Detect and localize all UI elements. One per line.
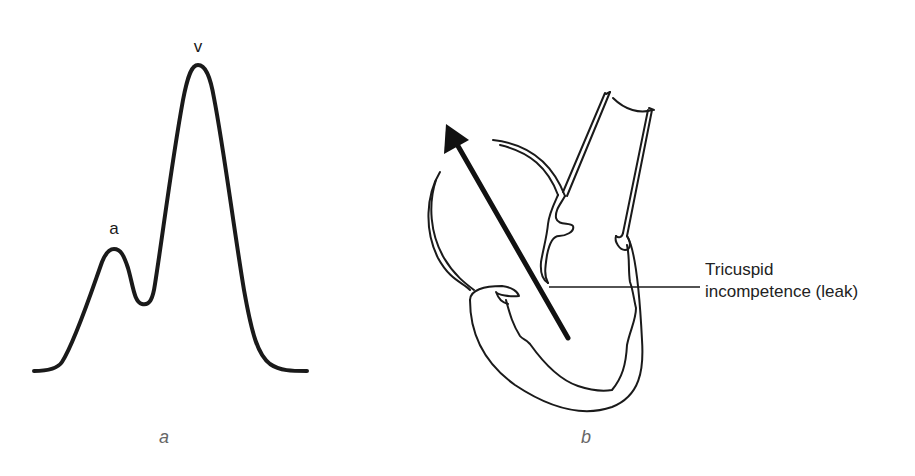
tricuspid-callout: Tricuspid incompetence (leak) xyxy=(705,259,858,303)
regurgitation-arrow-icon xyxy=(444,124,568,338)
callout-line-1: Tricuspid xyxy=(705,259,858,281)
v-wave-label: v xyxy=(194,38,203,55)
panel-a-caption: a xyxy=(159,428,169,446)
callout-line-2: incompetence (leak) xyxy=(705,281,858,303)
panel-b-caption: b xyxy=(581,428,591,446)
heart-diagram-panel: Tricuspid incompetence (leak) b xyxy=(400,0,915,476)
jvp-waveform-curve xyxy=(0,0,340,476)
heart-outline xyxy=(400,0,915,476)
jvp-waveform-panel: a v a xyxy=(0,0,340,476)
a-wave-label: a xyxy=(109,220,118,237)
